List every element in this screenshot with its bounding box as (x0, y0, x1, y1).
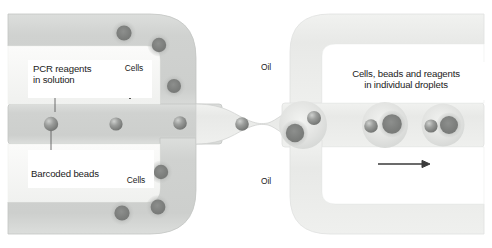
diagram-canvas (0, 0, 492, 248)
bead (109, 117, 122, 130)
oil-bottom-label: Oil (250, 176, 282, 186)
microfluidics-diagram: PCR reagents in solution Cells Barcoded … (0, 0, 492, 248)
cell (151, 200, 166, 215)
bead (44, 117, 58, 131)
cells-bottom-label: Cells (119, 175, 153, 185)
droplet-bead (364, 119, 378, 133)
droplet-bead (307, 111, 321, 125)
cell (116, 25, 131, 40)
droplet-cell (382, 114, 402, 134)
cell (152, 38, 166, 52)
droplet-cell (440, 116, 458, 134)
droplets-group (279, 101, 465, 149)
wall-right-bottom-strip (322, 147, 484, 204)
cells-top-label: Cells (116, 63, 152, 73)
bead (173, 116, 187, 130)
droplet-cell (286, 124, 304, 142)
bead (235, 117, 249, 131)
oil-top-label: Oil (250, 62, 282, 72)
droplets-label: Cells, beads and reagents in individual … (326, 68, 486, 91)
cell (114, 205, 129, 220)
cell (154, 165, 168, 179)
droplet-bead (424, 119, 437, 132)
cell (167, 79, 181, 93)
